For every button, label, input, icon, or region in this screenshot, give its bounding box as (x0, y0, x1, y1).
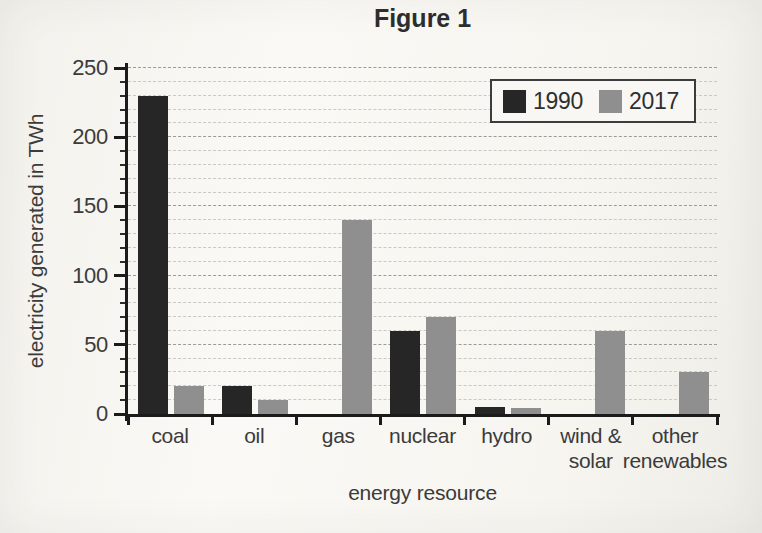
y-tick-0 (114, 413, 125, 416)
y-minor-tick-210 (120, 122, 125, 124)
y-minor-tick-10 (120, 399, 125, 401)
y-tick-200 (114, 136, 125, 139)
gridline-70 (128, 316, 717, 317)
bar-nuclear-2017 (426, 317, 456, 414)
y-tick-label-150: 150 (46, 195, 108, 217)
y-minor-tick-240 (120, 81, 125, 83)
legend: 1990 2017 (490, 79, 696, 123)
legend-label-1990: 1990 (533, 88, 583, 115)
bar-nuclear-1990 (390, 331, 420, 414)
y-tick-label-250: 250 (46, 57, 108, 79)
gridline-80 (128, 302, 717, 303)
gridline-170 (128, 178, 717, 179)
y-minor-tick-70 (120, 316, 125, 318)
y-minor-tick-30 (120, 371, 125, 373)
bar-coal-1990 (138, 96, 168, 414)
gridline-190 (128, 150, 717, 151)
y-tick-label-0: 0 (46, 403, 108, 425)
y-minor-tick-120 (120, 247, 125, 249)
gridline-120 (128, 247, 717, 248)
y-tick-250 (114, 67, 125, 70)
y-minor-tick-220 (120, 109, 125, 111)
bar-other-renewables-2017 (679, 372, 709, 414)
y-axis-title: electricity generated in TWh (24, 114, 48, 368)
x-category-label-line: other (600, 423, 750, 448)
bar-hydro-1990 (475, 407, 505, 414)
gridline-200 (128, 136, 717, 137)
y-minor-tick-20 (120, 385, 125, 387)
legend-swatch-1990 (503, 90, 526, 113)
gridline-60 (128, 330, 717, 331)
y-minor-tick-140 (120, 219, 125, 221)
y-minor-tick-110 (120, 261, 125, 263)
y-minor-tick-80 (120, 302, 125, 304)
legend-label-2017: 2017 (629, 88, 679, 115)
legend-swatch-2017 (599, 90, 622, 113)
bar-oil-1990 (222, 386, 252, 414)
bar-wind &-solar-2017 (595, 331, 625, 414)
y-tick-100 (114, 274, 125, 277)
gridline-90 (128, 288, 717, 289)
bar-gas-2017 (342, 220, 372, 414)
gridline-140 (128, 219, 717, 220)
gridline-20 (128, 385, 717, 386)
gridline-150 (128, 205, 717, 206)
figure-page: Figure 1 electricity generated in TWh en… (0, 0, 762, 533)
y-tick-150 (114, 205, 125, 208)
x-category-label-line: renewables (600, 448, 750, 473)
figure-title: Figure 1 (128, 4, 717, 33)
gridline-40 (128, 358, 717, 359)
y-tick-label-50: 50 (46, 334, 108, 356)
y-minor-tick-40 (120, 358, 125, 360)
y-minor-tick-180 (120, 164, 125, 166)
y-minor-tick-130 (120, 233, 125, 235)
gridline-160 (128, 192, 717, 193)
gridline-110 (128, 261, 717, 262)
y-minor-tick-170 (120, 178, 125, 180)
gridline-30 (128, 371, 717, 372)
gridline-10 (128, 399, 717, 400)
y-minor-tick-90 (120, 288, 125, 290)
y-tick-label-200: 200 (46, 126, 108, 148)
gridline-250 (128, 67, 717, 68)
x-axis-title: energy resource (128, 481, 717, 505)
gridline-50 (128, 344, 717, 345)
bar-coal-2017 (174, 386, 204, 414)
y-tick-50 (114, 343, 125, 346)
bar-oil-2017 (258, 400, 288, 414)
y-minor-tick-60 (120, 330, 125, 332)
y-minor-tick-190 (120, 150, 125, 152)
gridline-100 (128, 275, 717, 276)
y-minor-tick-160 (120, 192, 125, 194)
y-tick-label-100: 100 (46, 265, 108, 287)
gridline-180 (128, 164, 717, 165)
y-minor-tick-230 (120, 95, 125, 97)
x-category-label-other-renewables: otherrenewables (600, 423, 750, 473)
gridline-130 (128, 233, 717, 234)
y-axis-line (125, 63, 128, 421)
